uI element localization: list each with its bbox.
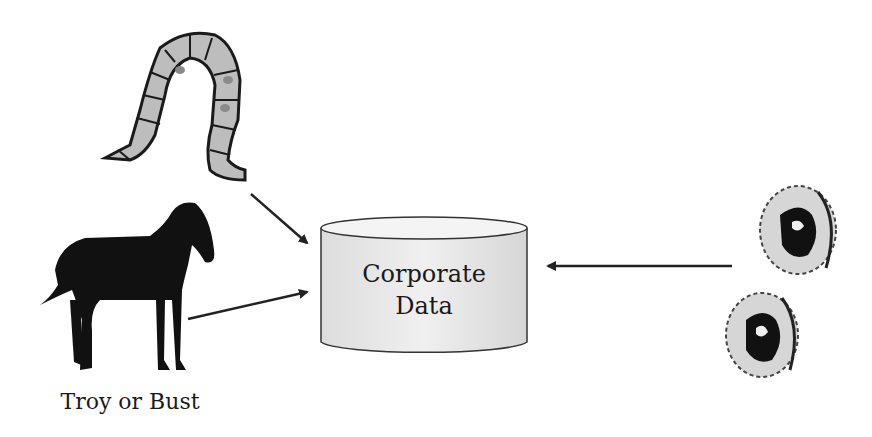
worm-icon [105,33,245,180]
virus-icon [760,186,836,274]
database-label: Corporate Data [320,258,528,322]
virus-icon [726,293,798,377]
horse-caption: Troy or Bust [40,388,220,416]
database-label-line1: Corporate [320,258,528,290]
arrow-horse-to-database [188,292,307,319]
database-label-line2: Data [320,290,528,322]
arrow-worm-to-database [251,194,307,243]
diagram-canvas [0,0,872,437]
horse-icon [40,202,214,370]
